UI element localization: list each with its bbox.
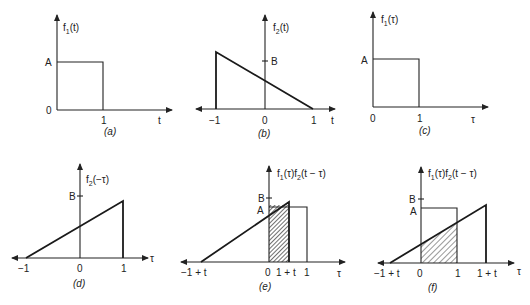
- caption-e: (e): [259, 281, 271, 292]
- xtick-1pt: 1 + t: [477, 268, 497, 279]
- xtick-1: 1: [304, 267, 310, 278]
- ytick-B: B: [258, 193, 265, 204]
- caption-c: (c): [419, 125, 431, 136]
- pulse-rect: [373, 59, 419, 107]
- xtick-0: 0: [265, 267, 271, 278]
- x-label: τ: [150, 253, 154, 264]
- panel-b: B f2(t) −1 0 1 t (b): [196, 15, 335, 139]
- xtick-m1t: −1 + t: [181, 267, 207, 278]
- xtick-0: 0: [262, 115, 268, 126]
- caption-a: (a): [104, 126, 116, 137]
- x-label: t: [158, 115, 161, 126]
- panel-a: f1(t) A 0 1 t (a): [45, 15, 172, 137]
- xtick-0: 0: [417, 268, 423, 279]
- caption-b: (b): [258, 128, 270, 139]
- panel-e: B A f1(τ)f2(t − τ) −1 + t 0 1 + t 1 τ (e…: [181, 166, 345, 292]
- ytick-B: B: [409, 194, 416, 205]
- xtick-m1: −1: [209, 115, 221, 126]
- ytick-A: A: [361, 55, 368, 66]
- panel-f: B A f1(τ)f2(t − τ) −1 + t 0 1 1 + t τ (f…: [374, 167, 521, 293]
- xtick-1: 1: [311, 115, 317, 126]
- xtick-1: 1: [101, 115, 107, 126]
- x-label: τ: [517, 266, 521, 277]
- x-label: τ: [337, 268, 341, 279]
- y-label: f2(t): [273, 22, 289, 35]
- convolution-diagram: f1(t) A 0 1 t (a) B f2(t) −1 0 1 t (b) f…: [0, 0, 530, 305]
- ytick-B: B: [69, 191, 76, 202]
- caption-f: (f): [428, 282, 437, 293]
- panel-c: f1(τ) A 0 1 τ (c): [361, 12, 488, 136]
- y-label: f1(τ)f2(t − τ): [428, 168, 477, 181]
- overlap-area: [421, 223, 457, 263]
- ytick-B: B: [271, 56, 278, 67]
- xtick-1: 1: [455, 268, 461, 279]
- reflected-triangle: [26, 201, 123, 258]
- xtick-1: 1: [417, 113, 423, 124]
- ytick-A: A: [410, 206, 417, 217]
- xtick-m1: −1: [18, 263, 30, 274]
- y-label: f1(t): [63, 22, 79, 35]
- x-label: τ: [471, 114, 475, 125]
- ytick-A: A: [257, 205, 264, 216]
- ytick-A: A: [45, 57, 52, 68]
- pulse-rect: [57, 62, 103, 110]
- ytick-0: 0: [46, 105, 52, 116]
- xtick-1pt: 1 + t: [276, 267, 296, 278]
- xtick-m1t: −1 + t: [374, 268, 400, 279]
- panel-d: B f2(−τ) −1 0 1 τ (d): [12, 164, 154, 289]
- caption-d: (d): [73, 278, 85, 289]
- x-label: t: [331, 115, 334, 126]
- xtick-0: 0: [77, 263, 83, 274]
- y-label: f1(τ): [381, 14, 398, 27]
- xtick-1: 1: [121, 263, 127, 274]
- xtick-0: 0: [370, 113, 376, 124]
- y-label: f1(τ)f2(t − τ): [277, 168, 326, 181]
- y-label: f2(−τ): [86, 174, 109, 187]
